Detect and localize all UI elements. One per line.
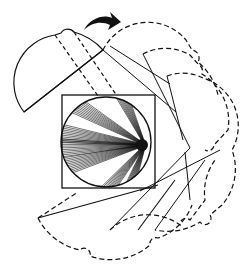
diagram-canvas bbox=[0, 0, 247, 275]
ray-line bbox=[59, 145, 145, 229]
ray-line bbox=[106, 145, 145, 259]
scanner-position-2 bbox=[143, 48, 229, 150]
ray-line bbox=[93, 145, 145, 253]
ray-line bbox=[104, 145, 145, 258]
ray-line bbox=[64, 145, 145, 234]
ray-line bbox=[101, 33, 145, 145]
scanner-position-3 bbox=[155, 73, 238, 231]
rotation-arrow-icon bbox=[84, 12, 121, 30]
ray-line bbox=[68, 145, 145, 237]
ray-bundle bbox=[25, 116, 145, 146]
scanner-position-5 bbox=[38, 205, 192, 260]
scanner-head-solid bbox=[14, 29, 117, 112]
ray-line bbox=[76, 145, 146, 243]
ray-line bbox=[28, 116, 145, 144]
ray-line bbox=[36, 94, 144, 146]
scanner-position-1 bbox=[103, 22, 218, 95]
focal-point bbox=[136, 139, 148, 151]
ray-line bbox=[99, 145, 144, 256]
diagram-svg bbox=[0, 0, 247, 275]
ray-line bbox=[95, 145, 145, 254]
